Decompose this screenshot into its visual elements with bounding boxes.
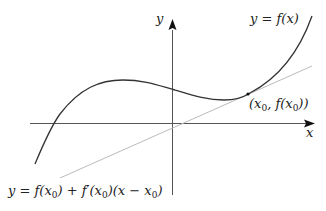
- tangent-label-t1end: ): [58, 183, 63, 198]
- tangent-label-t1: f(x: [35, 183, 52, 198]
- tangent-label-t2: f′(x: [82, 183, 102, 198]
- tangent-label-eq: =: [20, 183, 31, 198]
- point-label-mid: , f(x: [267, 96, 292, 111]
- tangent-label: y = f(x0) + f′(x0)(x − x0): [8, 184, 163, 197]
- point-label-open: (x: [249, 96, 261, 111]
- tangent-label-plus: +: [67, 183, 78, 198]
- curve-label: y = f(x): [250, 12, 299, 25]
- x-axis-label: x: [306, 126, 313, 139]
- curve-label-rhs: f(x): [277, 11, 299, 26]
- tangent-label-minus: −: [129, 183, 140, 198]
- tangent-label-t3end: ): [157, 183, 162, 198]
- curve-f: [35, 16, 312, 164]
- y-axis-arrow-icon: [169, 19, 177, 30]
- tangent-line: [60, 66, 312, 178]
- curve-label-eq: =: [262, 11, 273, 26]
- point-label-close: )): [298, 96, 308, 111]
- curve-label-lhs: y: [250, 11, 257, 26]
- point-label: (x0, f(x0)): [249, 97, 309, 110]
- tangent-label-t2end: )(x: [108, 183, 125, 198]
- tangent-label-lhs: y: [8, 183, 15, 198]
- y-axis-label: y: [156, 12, 163, 25]
- tangent-label-t3: x: [144, 183, 151, 198]
